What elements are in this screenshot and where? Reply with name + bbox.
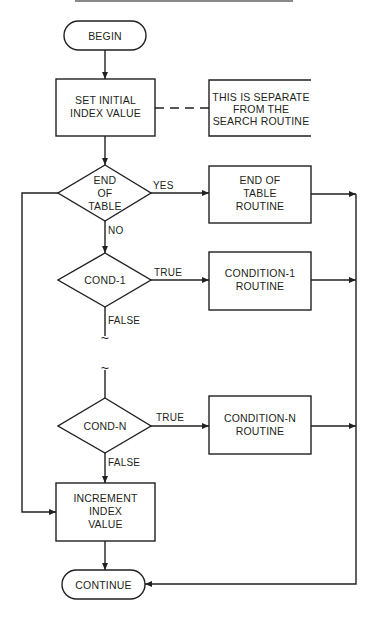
cond-1-decision: COND-1 <box>58 253 151 307</box>
end-decision-line-1: END <box>94 174 117 186</box>
set-initial-line-2: INDEX VALUE <box>70 107 141 119</box>
flowchart: BEGIN SET INITIAL INDEX VALUE THIS IS SE… <box>0 0 366 619</box>
cn-routine-line-2: ROUTINE <box>236 425 285 437</box>
cond1-false-label: FALSE <box>108 315 140 326</box>
increment-line-1: INCREMENT <box>73 492 138 504</box>
eot-routine-line-2: TABLE <box>243 187 276 199</box>
condn-true-label: TRUE <box>156 412 184 423</box>
set-initial-index-box: SET INITIAL INDEX VALUE <box>56 79 155 136</box>
cond-n-decision: COND-N <box>58 398 151 453</box>
note-line-1: THIS IS SEPARATE <box>212 91 309 103</box>
eot-routine-line-1: END OF <box>240 174 281 186</box>
yes-label: YES <box>153 180 174 191</box>
continue-terminal: CONTINUE <box>62 570 145 599</box>
condition-n-routine-box: CONDITION-N ROUTINE <box>209 396 311 454</box>
break-marker-top: ~ <box>101 330 109 346</box>
condn-false-label: FALSE <box>108 457 140 468</box>
continue-label: CONTINUE <box>75 579 131 591</box>
end-decision-line-3: TABLE <box>88 200 121 212</box>
end-decision-line-2: OF <box>98 187 113 199</box>
c1-routine-line-1: CONDITION-1 <box>225 267 295 279</box>
increment-line-3: VALUE <box>88 518 123 530</box>
note-line-2: FROM THE <box>233 103 289 115</box>
increment-line-2: INDEX <box>89 505 122 517</box>
increment-index-box: INCREMENT INDEX VALUE <box>56 483 155 541</box>
condition-1-routine-box: CONDITION-1 ROUTINE <box>209 252 311 310</box>
begin-label: BEGIN <box>88 30 122 42</box>
no-label: NO <box>108 225 123 236</box>
note-line-3: SEARCH ROUTINE <box>213 115 310 127</box>
eot-routine-line-3: ROUTINE <box>236 200 285 212</box>
begin-terminal: BEGIN <box>64 21 146 50</box>
end-of-table-decision: END OF TABLE <box>58 165 151 221</box>
left-loop-line <box>22 193 58 512</box>
annotation-note: THIS IS SEPARATE FROM THE SEARCH ROUTINE <box>209 80 311 136</box>
cond-n-label: COND-N <box>83 420 126 432</box>
cn-routine-line-1: CONDITION-N <box>224 412 296 424</box>
cond1-true-label: TRUE <box>154 267 182 278</box>
cond-1-label: COND-1 <box>84 274 125 286</box>
c1-routine-line-2: ROUTINE <box>236 280 285 292</box>
end-of-table-routine-box: END OF TABLE ROUTINE <box>209 166 311 223</box>
set-initial-line-1: SET INITIAL <box>75 94 136 106</box>
